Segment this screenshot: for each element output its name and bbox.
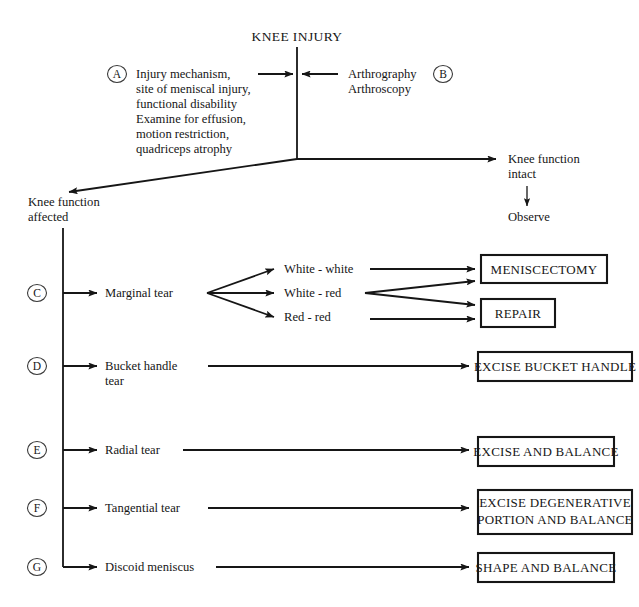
marker-f: F [28, 500, 47, 517]
input-left-line-2: site of meniscal injury, [136, 82, 251, 96]
input-right-line-2: Arthroscopy [348, 82, 412, 96]
marker-b-label: B [439, 68, 447, 80]
outcome-affected-line-2: affected [28, 210, 69, 224]
marker-f-label: F [34, 502, 40, 514]
branch-e-label: Radial tear [105, 443, 161, 457]
marker-g-label: G [33, 561, 41, 573]
subnode-white-red-label: White - red [284, 286, 342, 300]
flowchart-page: KNEE INJURY A Injury mechanism, site of … [0, 0, 639, 607]
input-left-text: Injury mechanism, site of meniscal injur… [136, 67, 251, 156]
input-left-line-6: quadriceps atrophy [136, 142, 233, 156]
treatment-shape-and-balance-label: SHAPE AND BALANCE [476, 560, 617, 575]
marker-e-label: E [33, 444, 40, 456]
treatment-excise-bucket-handle-label: EXCISE BUCKET HANDLE [474, 359, 636, 374]
treatment-excise-and-balance-label: EXCISE AND BALANCE [473, 444, 618, 459]
treatment-excise-degenerative-line-1: EXCISE DEGENERATIVE [479, 495, 631, 510]
outcome-affected-label: Knee function affected [28, 195, 100, 224]
outcome-observe-label: Observe [508, 210, 550, 224]
treatment-box-excise-bucket-handle[interactable]: EXCISE BUCKET HANDLE [474, 352, 636, 381]
input-left-line-3: functional disability [136, 97, 238, 111]
input-right-line-1: Arthrography [348, 67, 417, 81]
branch-c-label: Marginal tear [105, 286, 174, 300]
arrow-white-red-to-meniscectomy [365, 281, 475, 293]
treatment-repair-label: REPAIR [495, 306, 542, 321]
outcome-intact-label: Knee function intact [508, 152, 580, 181]
marker-a-label: A [113, 68, 122, 80]
arrow-marginal-to-white-white [207, 269, 274, 293]
marker-a: A [108, 66, 127, 83]
root-title: KNEE INJURY [251, 29, 342, 44]
marker-e: E [28, 442, 47, 459]
input-right-text: Arthrography Arthroscopy [348, 67, 417, 96]
marker-c: C [28, 285, 47, 302]
input-left-line-4: Examine for effusion, [136, 112, 246, 126]
treatment-box-excise-and-balance[interactable]: EXCISE AND BALANCE [473, 437, 618, 466]
arrow-to-knee-affected [69, 159, 297, 192]
knee-injury-flowchart: KNEE INJURY A Injury mechanism, site of … [0, 0, 639, 607]
marker-d: D [28, 358, 47, 375]
subnode-white-white-label: White - white [284, 262, 354, 276]
arrow-white-red-to-repair [365, 293, 475, 305]
treatment-box-repair[interactable]: REPAIR [481, 299, 555, 327]
input-left-line-5: motion restriction, [136, 127, 229, 141]
marker-b: B [434, 66, 453, 83]
outcome-intact-line-1: Knee function [508, 152, 580, 166]
treatment-box-shape-and-balance[interactable]: SHAPE AND BALANCE [476, 553, 617, 582]
treatment-excise-degenerative-line-2: PORTION AND BALANCE [477, 512, 633, 527]
branch-g-label: Discoid meniscus [105, 560, 194, 574]
treatment-meniscectomy-label: MENISCECTOMY [491, 262, 598, 277]
branch-d-label-line-1: Bucket handle [105, 359, 178, 373]
marker-g: G [28, 559, 47, 576]
outcome-intact-line-2: intact [508, 167, 536, 181]
arrow-marginal-to-red-red [207, 293, 274, 317]
branch-d-label-line-2: tear [105, 374, 125, 388]
treatment-box-excise-degenerative[interactable]: EXCISE DEGENERATIVE PORTION AND BALANCE [477, 490, 633, 534]
subnode-red-red-label: Red - red [284, 310, 332, 324]
treatment-box-meniscectomy[interactable]: MENISCECTOMY [481, 255, 607, 283]
input-left-line-1: Injury mechanism, [136, 67, 230, 81]
marker-d-label: D [33, 360, 41, 372]
marker-c-label: C [33, 287, 41, 299]
branch-f-label: Tangential tear [105, 501, 181, 515]
outcome-affected-line-1: Knee function [28, 195, 100, 209]
